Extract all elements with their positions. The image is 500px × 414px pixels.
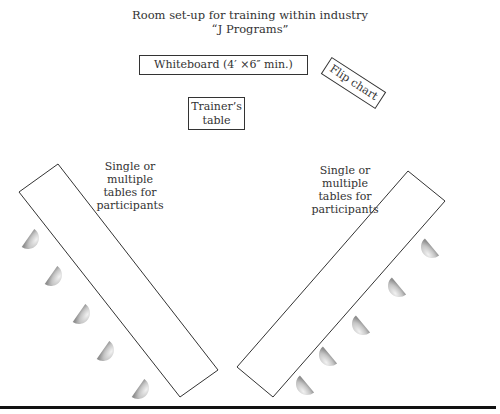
label-line: participants [305,203,385,216]
label-line: Single or [90,160,170,173]
right-chair-icon [417,239,440,263]
label-line: tables for [90,186,170,199]
label-line: Single or [305,164,385,177]
label-line: tables for [305,190,385,203]
label-line: multiple [90,173,170,186]
trainer-table: Trainer’s table [188,97,245,130]
left-chair-icon [22,229,44,253]
right-chair-icon [384,278,407,302]
whiteboard: Whiteboard (4′ ×6″ min.) [139,55,308,75]
left-tables-label: Single or multiple tables for participan… [90,160,170,212]
right-tables-label: Single or multiple tables for participan… [305,164,385,216]
right-chair-icon [348,316,371,340]
trainer-table-label-line1: Trainer’s [189,100,244,114]
left-chair-icon [45,266,67,290]
right-chair-icon [292,376,315,400]
floor-line [0,406,496,409]
trainer-table-label-line2: table [189,114,244,128]
right-chair-icon [315,347,338,371]
left-chair-icon [132,379,154,403]
left-chair-icon [97,341,119,365]
label-line: multiple [305,177,385,190]
label-line: participants [90,199,170,212]
left-chair-icon [73,304,95,328]
